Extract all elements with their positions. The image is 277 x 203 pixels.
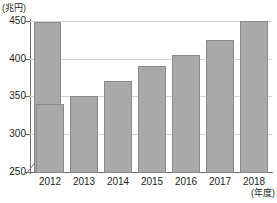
y-axis-unit-label: (兆円) — [2, 3, 26, 13]
x-axis-unit-label: (年度) — [251, 188, 275, 198]
xtick-label-2018: 2018 — [232, 176, 276, 187]
ytick-label-300: 300 — [9, 129, 26, 139]
bar-2016 — [172, 55, 200, 173]
bar-chart: (兆円) 450 400 350 300 250 2012 2013 2014 … — [0, 0, 277, 203]
ytick-label-350: 350 — [9, 91, 26, 101]
ytick-label-450: 450 — [9, 16, 26, 26]
ytick-label-400: 400 — [9, 54, 26, 64]
bar-2012 — [36, 104, 64, 173]
bar-2013 — [70, 96, 98, 173]
bar-2014 — [104, 81, 132, 173]
bar-2015 — [138, 66, 166, 173]
gridline-450 — [30, 21, 272, 22]
ytick-label-250: 250 — [9, 167, 26, 177]
bar-2017 — [206, 40, 234, 173]
gridline-400 — [30, 59, 272, 60]
bar-2018-main — [240, 21, 268, 173]
axis-break-icon — [25, 163, 36, 175]
